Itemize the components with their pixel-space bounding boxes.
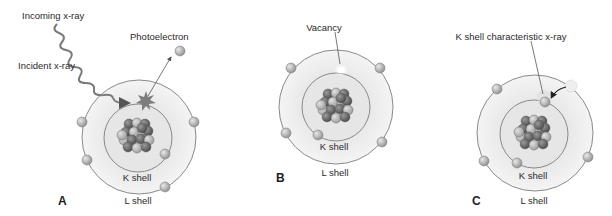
nucleon-dark bbox=[340, 112, 350, 122]
ghost-electron bbox=[565, 80, 577, 92]
photoelectron-label: Photoelectron bbox=[130, 31, 189, 42]
panel-letter-b: B bbox=[276, 171, 285, 185]
nucleon-light bbox=[117, 130, 127, 140]
l-shell-label: L shell bbox=[321, 167, 348, 178]
nucleon-dark bbox=[336, 93, 346, 103]
electron bbox=[82, 155, 92, 165]
nucleon-dark bbox=[141, 142, 151, 152]
photoelectron bbox=[175, 46, 185, 56]
l-shell-label: L shell bbox=[520, 195, 547, 206]
photoelectric-effect-figure: Incoming x-ray Incident x-ray Photoelect… bbox=[0, 0, 612, 216]
l-shell-label: L shell bbox=[124, 195, 151, 206]
nucleon-light bbox=[514, 127, 524, 137]
nucleon-dark bbox=[538, 139, 548, 149]
electron bbox=[479, 156, 489, 166]
electron bbox=[286, 63, 296, 73]
electron bbox=[375, 63, 385, 73]
panel-letter-c: C bbox=[472, 194, 481, 208]
electron bbox=[583, 152, 593, 162]
vacancy-label: Vacancy bbox=[306, 22, 342, 33]
nucleon-light bbox=[529, 140, 539, 150]
nucleon-dark bbox=[123, 142, 133, 152]
electron bbox=[281, 128, 291, 138]
electron bbox=[512, 158, 522, 168]
k-shell-label: K shell bbox=[123, 172, 152, 183]
panel-letter-a: A bbox=[58, 194, 67, 208]
nucleon-light bbox=[132, 143, 142, 153]
nucleon-dark bbox=[520, 139, 530, 149]
electron bbox=[77, 117, 87, 127]
electron bbox=[492, 84, 502, 94]
k-shell-label: K shell bbox=[320, 141, 349, 152]
k-shell-label: K shell bbox=[519, 170, 548, 181]
electron bbox=[189, 117, 199, 127]
nucleon-dark bbox=[322, 112, 332, 122]
nucleon-light bbox=[331, 113, 341, 123]
nucleon-dark bbox=[534, 120, 544, 130]
electron bbox=[377, 137, 387, 147]
vacancy-core bbox=[337, 67, 345, 73]
electron-transitioning bbox=[540, 97, 550, 107]
electron bbox=[160, 149, 170, 159]
panel-a: Incoming x-ray Incident x-ray Photoelect… bbox=[18, 10, 199, 208]
characteristic-xray-label: K shell characteristic x-ray bbox=[456, 31, 567, 42]
electron bbox=[160, 182, 170, 192]
electron bbox=[313, 130, 323, 140]
nucleon-light bbox=[316, 100, 326, 110]
incoming-xray-label: Incoming x-ray bbox=[22, 10, 85, 21]
panel-b: Vacancy K shell L shell B bbox=[276, 22, 393, 185]
nucleon-dark bbox=[137, 123, 147, 133]
incident-xray-label: Incident x-ray bbox=[18, 60, 75, 71]
panel-c: K shell characteristic x-ray K shell L s… bbox=[456, 31, 593, 208]
